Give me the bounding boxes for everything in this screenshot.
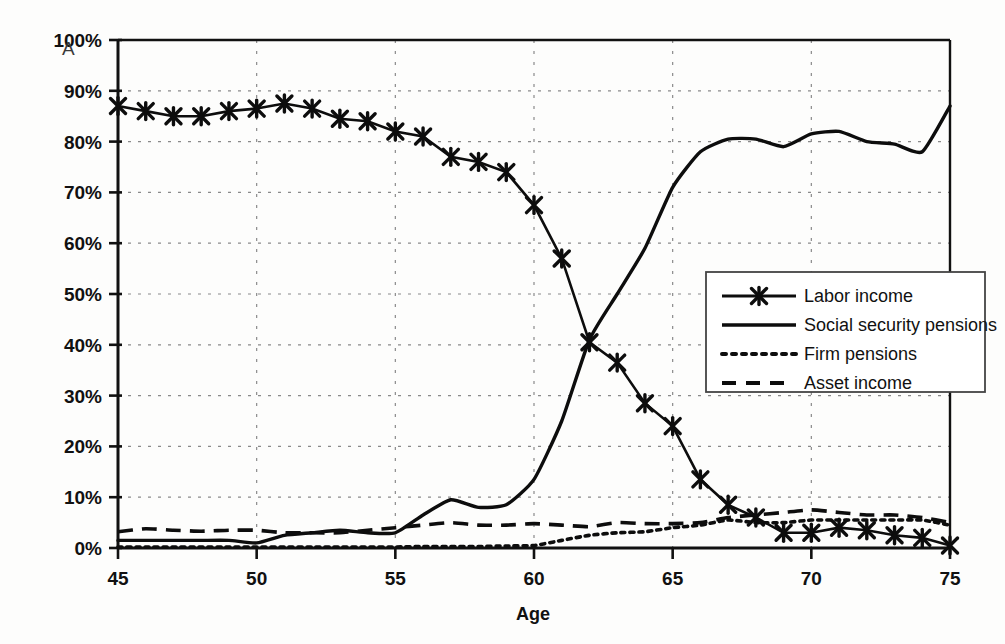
y-tick-label: 70% (64, 182, 102, 203)
y-tick-label: 40% (64, 335, 102, 356)
y-tick-label: 80% (64, 132, 102, 153)
y-tick-label: 60% (64, 233, 102, 254)
y-tick-label: 90% (64, 81, 102, 102)
y-tick-label: 30% (64, 386, 102, 407)
y-tick-label: 50% (64, 284, 102, 305)
legend-label: Social security pensions (804, 315, 997, 335)
legend-label: Labor income (804, 286, 913, 306)
x-tick-label: 50 (246, 568, 267, 589)
data-marker-x (693, 471, 708, 488)
y-tick-label: 0% (75, 538, 103, 559)
x-axis-tick-labels: 45505560657075 (107, 568, 961, 589)
y-tick-label: 20% (64, 436, 102, 457)
line-chart: 0%10%20%30%40%50%60%70%80%90%100% 455055… (0, 0, 1005, 644)
legend-label: Asset income (804, 373, 912, 393)
x-tick-label: 45 (107, 568, 129, 589)
data-marker-x (610, 354, 625, 371)
x-tick-label: 60 (523, 568, 544, 589)
data-marker-x (582, 334, 597, 351)
y-axis-tickmarks (109, 40, 122, 548)
data-marker-x (554, 250, 569, 267)
data-marker-x (527, 197, 542, 214)
data-marker-x (665, 418, 680, 435)
x-axis-title: Age (516, 604, 550, 624)
y-tick-label: 10% (64, 487, 102, 508)
figure-container: 0%10%20%30%40%50%60%70%80%90%100% 455055… (0, 0, 1005, 644)
data-marker-x (499, 164, 514, 181)
data-marker-x (637, 395, 652, 412)
x-tick-label: 55 (385, 568, 407, 589)
data-marker-x (748, 509, 763, 526)
panel-label: A (62, 38, 75, 59)
data-marker-x (721, 496, 736, 513)
data-marker-x (943, 537, 958, 554)
x-tick-label: 75 (939, 568, 961, 589)
y-tick-label: 100% (53, 30, 102, 51)
legend-label: Firm pensions (804, 344, 917, 364)
legend-item-labor-income: Labor income (722, 286, 913, 306)
x-axis-tickmarks (118, 548, 950, 559)
chart-legend: Labor incomeSocial security pensionsFirm… (706, 272, 997, 393)
x-tick-label: 65 (662, 568, 684, 589)
x-tick-label: 70 (801, 568, 822, 589)
y-axis-tick-labels: 0%10%20%30%40%50%60%70%80%90%100% (53, 30, 102, 559)
